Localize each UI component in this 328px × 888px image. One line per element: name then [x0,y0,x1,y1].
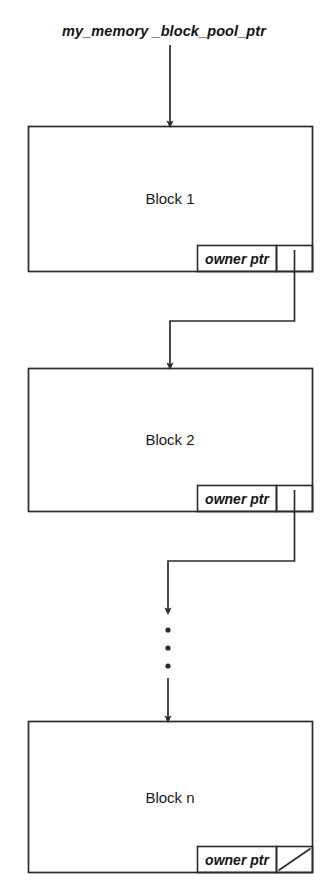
block-1-title: Block 1 [145,191,194,206]
block-2-owner-ptr-label: owner ptr [205,492,269,506]
block-2-title: Block 2 [145,432,194,447]
block-2-to-ellipsis-connector [168,490,295,611]
memory-block-pool-diagram: my_memory _block_pool_ptr Block 1 owner … [0,0,328,888]
block-n-title: Block n [145,790,194,805]
pool-pointer-label: my_memory _block_pool_ptr [62,24,266,39]
null-pointer-slash-icon [279,849,311,871]
vertical-ellipsis [165,627,170,668]
block-n-owner-ptr-label: owner ptr [205,853,269,867]
block-1-owner-ptr-label: owner ptr [205,252,269,266]
